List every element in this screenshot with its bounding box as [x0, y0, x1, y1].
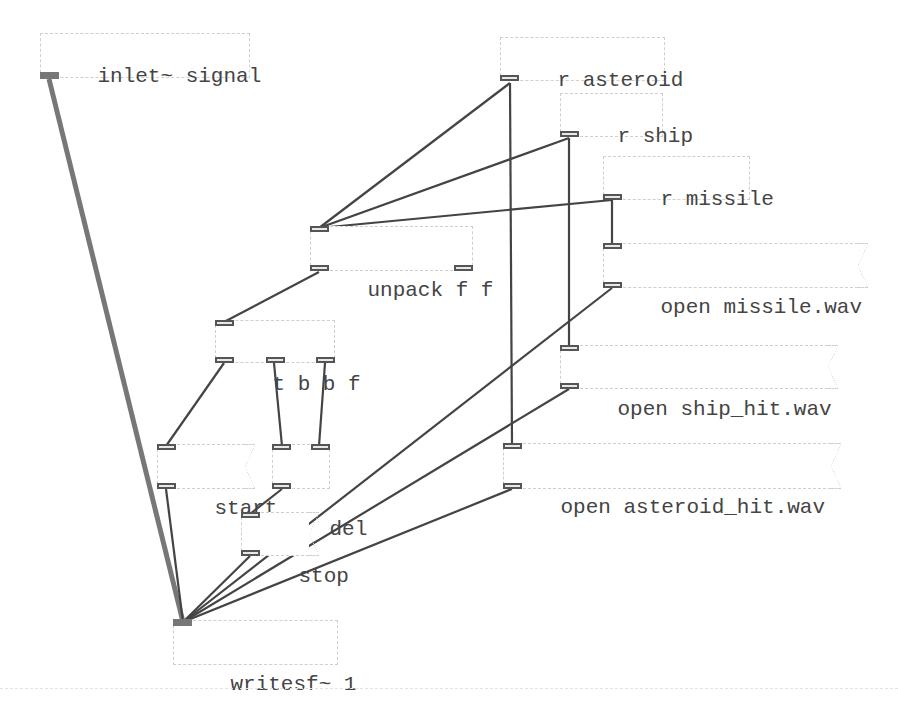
patch-canvas[interactable]: inlet~ signal r asteroid r ship r missil…: [0, 0, 898, 702]
outlet-port[interactable]: [603, 282, 622, 288]
inlet-port[interactable]: [603, 243, 622, 249]
object-label: r ship: [617, 125, 693, 148]
outlet-port[interactable]: [603, 194, 622, 200]
wire-unpack-to-trigger[interactable]: [224, 272, 319, 322]
outlet-port-2[interactable]: [266, 357, 285, 363]
wire-rasteroid-to-unpack[interactable]: [319, 83, 510, 228]
message-label: stop: [298, 565, 348, 588]
object-label: t b b f: [272, 373, 360, 396]
object-trigger[interactable]: t b b f: [215, 320, 335, 363]
wire-rship-to-unpack[interactable]: [319, 138, 569, 228]
outlet-port[interactable]: [560, 383, 579, 389]
outlet-port[interactable]: [272, 483, 291, 489]
wire-rasteroid-to-msg-asteroid-hit[interactable]: [510, 83, 512, 444]
inlet-port[interactable]: [310, 226, 329, 232]
wire-rmissile-to-unpack[interactable]: [319, 200, 612, 228]
outlet-port[interactable]: [157, 483, 176, 489]
object-r-asteroid[interactable]: r asteroid: [500, 37, 665, 81]
inlet-port[interactable]: [503, 443, 522, 449]
object-label: writesf~ 1: [230, 673, 356, 696]
inlet-port[interactable]: [173, 619, 192, 626]
object-unpack[interactable]: unpack f f: [310, 226, 473, 271]
message-start[interactable]: start: [157, 444, 245, 489]
message-open-asteroid-hit-wav[interactable]: open asteroid_hit.wav: [503, 443, 831, 489]
message-label: open ship_hit.wav: [617, 398, 831, 421]
message-label: open asteroid_hit.wav: [560, 496, 825, 519]
message-stop[interactable]: stop: [241, 512, 309, 556]
object-writesf[interactable]: writesf~ 1: [173, 620, 338, 665]
message-open-missile-wav[interactable]: open missile.wav: [603, 243, 858, 288]
object-r-ship[interactable]: r ship: [560, 93, 663, 137]
object-label: unpack f f: [367, 279, 493, 302]
object-label: r asteroid: [557, 69, 683, 92]
canvas-edge-divider: [0, 688, 898, 690]
outlet-port[interactable]: [560, 131, 579, 137]
message-label: open missile.wav: [660, 296, 862, 319]
outlet-port-right[interactable]: [454, 265, 473, 271]
inlet-port-right[interactable]: [311, 444, 330, 450]
outlet-port[interactable]: [40, 72, 59, 79]
outlet-port-1[interactable]: [215, 357, 234, 363]
object-label: del: [329, 518, 367, 541]
wire-stop-to-writesf[interactable]: [183, 556, 250, 622]
wire-inlet-to-writesf[interactable]: [49, 79, 183, 622]
inlet-port-left[interactable]: [272, 444, 291, 450]
message-open-ship-hit-wav[interactable]: open ship_hit.wav: [560, 345, 828, 389]
inlet-port[interactable]: [157, 444, 176, 450]
object-del[interactable]: del: [272, 444, 330, 489]
inlet-port[interactable]: [215, 320, 234, 326]
wire-trigger-to-start[interactable]: [166, 363, 224, 446]
object-inlet-signal[interactable]: inlet~ signal: [40, 33, 250, 78]
inlet-port[interactable]: [560, 345, 579, 351]
outlet-port[interactable]: [241, 550, 260, 556]
outlet-port[interactable]: [503, 483, 522, 489]
object-label: inlet~ signal: [97, 65, 261, 88]
outlet-port-left[interactable]: [310, 265, 329, 271]
object-r-missile[interactable]: r missile: [603, 156, 750, 200]
inlet-port[interactable]: [241, 512, 260, 518]
outlet-port-3[interactable]: [316, 357, 335, 363]
object-label: r missile: [660, 188, 773, 211]
outlet-port[interactable]: [500, 75, 519, 81]
